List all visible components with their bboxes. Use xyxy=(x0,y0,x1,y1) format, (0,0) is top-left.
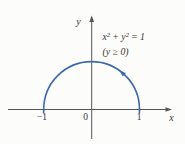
tick-label-neg-one: −1 xyxy=(37,112,47,122)
diagram-svg: y x −1 0 1 x² + y² = 1 (y ≥ 0) xyxy=(0,0,185,144)
equation-line-1: x² + y² = 1 xyxy=(102,31,146,42)
y-axis-arrowhead-icon xyxy=(89,16,94,23)
y-axis-label: y xyxy=(75,16,81,27)
tick-label-one: 1 xyxy=(137,112,142,122)
equation-line-2: (y ≥ 0) xyxy=(103,46,129,58)
unit-semicircle-figure: y x −1 0 1 x² + y² = 1 (y ≥ 0) xyxy=(0,0,185,144)
x-axis-label: x xyxy=(168,112,174,123)
tick-label-zero: 0 xyxy=(83,112,88,122)
